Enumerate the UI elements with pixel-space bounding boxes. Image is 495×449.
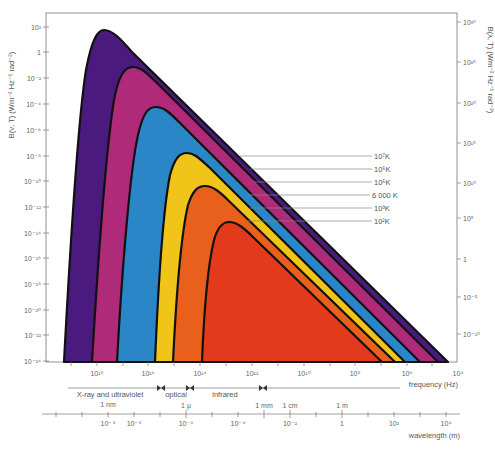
- left-y-axis: 10² 1 10⁻² 10⁻⁴ 10⁻⁶ 10⁻⁸ 10⁻¹⁰ 10⁻¹² 10…: [7, 24, 49, 365]
- blackbody-chart: 10⁷K 10⁶K 10⁵K 6 000 K 10³K 10²K 10² 1 1…: [0, 0, 495, 449]
- svg-text:10⁻²: 10⁻²: [27, 75, 42, 82]
- svg-text:10⁴: 10⁴: [441, 420, 452, 427]
- mark-1nm: 1 nm: [100, 401, 116, 408]
- temp-label: 10⁶K: [374, 165, 390, 174]
- temp-label: 10²K: [374, 217, 390, 226]
- svg-text:10⁻²: 10⁻²: [283, 420, 298, 427]
- x-axis-label: frequency (Hz): [409, 380, 459, 389]
- svg-text:10⁻¹⁴: 10⁻¹⁴: [24, 230, 41, 237]
- y-axis-label: B(ν, T) (Wm⁻² Hz⁻¹ rad⁻²): [7, 51, 16, 138]
- mark-1m: 1 m: [336, 402, 348, 409]
- wavelength-axis: 10⁻⁹ 10⁻⁸ 10⁻⁶ 10⁻⁴ 10⁻² 1 10² 10⁴ 1 nm …: [42, 401, 460, 440]
- svg-text:10⁻⁶: 10⁻⁶: [179, 420, 194, 427]
- temp-label: 10⁷K: [374, 152, 390, 161]
- mark-1cm: 1 cm: [282, 402, 297, 409]
- svg-text:10⁵: 10⁵: [463, 215, 474, 222]
- svg-text:10⁻⁹: 10⁻⁹: [101, 420, 116, 427]
- temp-label: 10³K: [374, 204, 390, 213]
- svg-text:10²⁵: 10²⁵: [463, 59, 476, 66]
- svg-text:1: 1: [340, 420, 344, 427]
- svg-text:10⁻⁴: 10⁻⁴: [26, 101, 41, 108]
- temp-label: 10⁵K: [374, 178, 390, 187]
- svg-text:10⁻⁸: 10⁻⁸: [26, 153, 41, 160]
- svg-text:10⁻¹²: 10⁻¹²: [25, 204, 42, 211]
- svg-text:10²: 10²: [31, 24, 42, 31]
- svg-text:10¹⁸: 10¹⁸: [90, 370, 103, 377]
- svg-text:10¹⁰: 10¹⁰: [297, 370, 310, 377]
- svg-text:10¹⁰: 10¹⁰: [463, 180, 476, 187]
- svg-text:10⁻²⁴: 10⁻²⁴: [24, 358, 41, 365]
- spectral-regions: X-ray and ultraviolet optical infrared: [68, 385, 400, 399]
- svg-text:10⁻¹⁸: 10⁻¹⁸: [24, 281, 41, 288]
- svg-text:10⁸: 10⁸: [350, 370, 361, 377]
- region-xray: X-ray and ultraviolet: [77, 390, 145, 399]
- svg-text:10⁻⁴: 10⁻⁴: [231, 420, 246, 427]
- region-optical: optical: [165, 390, 187, 399]
- svg-text:10⁻⁸: 10⁻⁸: [127, 420, 142, 427]
- svg-text:10⁻⁵: 10⁻⁵: [463, 294, 478, 301]
- temperature-labels: 10⁷K 10⁶K 10⁵K 6 000 K 10³K 10²K: [372, 152, 398, 226]
- svg-text:1: 1: [37, 49, 41, 56]
- frequency-axis: 10¹⁸ 10¹⁶ 10¹⁴ 10¹² 10¹⁰ 10⁸ 10⁶ 10⁴ fre…: [71, 362, 463, 389]
- svg-text:10⁶: 10⁶: [402, 370, 413, 377]
- svg-text:10⁻⁶: 10⁻⁶: [26, 127, 41, 134]
- svg-text:10⁴: 10⁴: [453, 370, 464, 377]
- mark-1micron: 1 μ: [181, 402, 191, 410]
- region-infrared: infrared: [212, 390, 237, 399]
- svg-text:10³⁰: 10³⁰: [463, 19, 476, 26]
- mark-1mm: 1 mm: [255, 402, 273, 409]
- wavelength-label: wavelength (m): [408, 431, 461, 440]
- svg-text:10⁻²²: 10⁻²²: [25, 332, 42, 339]
- svg-text:10²: 10²: [389, 420, 400, 427]
- temp-label: 6 000 K: [372, 191, 398, 200]
- svg-text:10⁻²⁰: 10⁻²⁰: [24, 307, 41, 314]
- right-y-axis: 10³⁰ 10²⁵ 10²⁰ 10¹⁵ 10¹⁰ 10⁵ 1 10⁻⁵ 10⁻¹…: [457, 19, 495, 338]
- svg-text:10²⁰: 10²⁰: [463, 100, 476, 107]
- svg-text:10⁻¹⁰: 10⁻¹⁰: [463, 331, 480, 338]
- svg-text:10¹⁴: 10¹⁴: [193, 370, 206, 377]
- svg-text:10⁻¹⁶: 10⁻¹⁶: [24, 255, 41, 262]
- svg-text:1: 1: [463, 256, 467, 263]
- svg-text:10¹⁵: 10¹⁵: [463, 140, 476, 147]
- y2-axis-label: B(λ, T) (Wm⁻² Hz⁻¹ rad⁻²): [486, 27, 495, 114]
- svg-text:10¹²: 10¹²: [246, 370, 259, 377]
- svg-text:10⁻¹⁰: 10⁻¹⁰: [24, 178, 41, 185]
- svg-text:10¹⁶: 10¹⁶: [142, 370, 155, 377]
